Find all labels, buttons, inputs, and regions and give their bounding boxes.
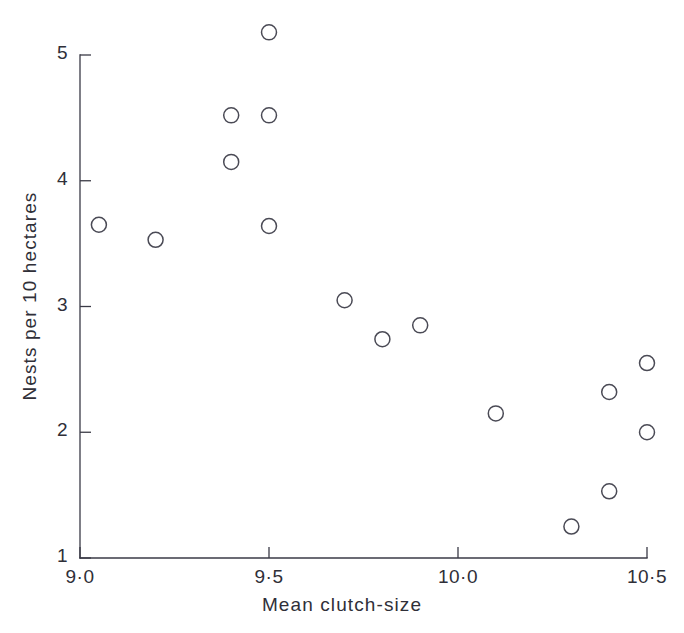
data-point — [262, 25, 277, 40]
x-tick-label: 10·0 — [408, 566, 508, 588]
data-point — [224, 108, 239, 123]
axes — [80, 55, 647, 558]
data-point — [375, 332, 390, 347]
x-axis-label: Mean clutch-size — [0, 594, 684, 616]
x-tick-label: 10·5 — [597, 566, 684, 588]
scatter-plot-figure: 12345 9·09·510·010·5 Mean clutch-size Ne… — [0, 0, 684, 633]
data-point — [640, 425, 655, 440]
y-axis-label: Nests per 10 hectares — [19, 166, 41, 426]
x-tick-label: 9·0 — [30, 566, 130, 588]
data-markers — [91, 25, 654, 534]
plot-canvas — [0, 0, 684, 633]
data-point — [602, 484, 617, 499]
tick-marks — [80, 55, 647, 558]
data-point — [262, 219, 277, 234]
data-point — [148, 232, 163, 247]
x-tick-label: 9·5 — [219, 566, 319, 588]
data-point — [602, 385, 617, 400]
data-point — [640, 356, 655, 371]
data-point — [337, 293, 352, 308]
data-point — [91, 217, 106, 232]
data-point — [262, 108, 277, 123]
y-tick-label: 1 — [8, 545, 68, 567]
data-point — [564, 519, 579, 534]
data-point — [413, 318, 428, 333]
y-tick-label: 5 — [8, 42, 68, 64]
data-point — [224, 154, 239, 169]
data-point — [488, 406, 503, 421]
